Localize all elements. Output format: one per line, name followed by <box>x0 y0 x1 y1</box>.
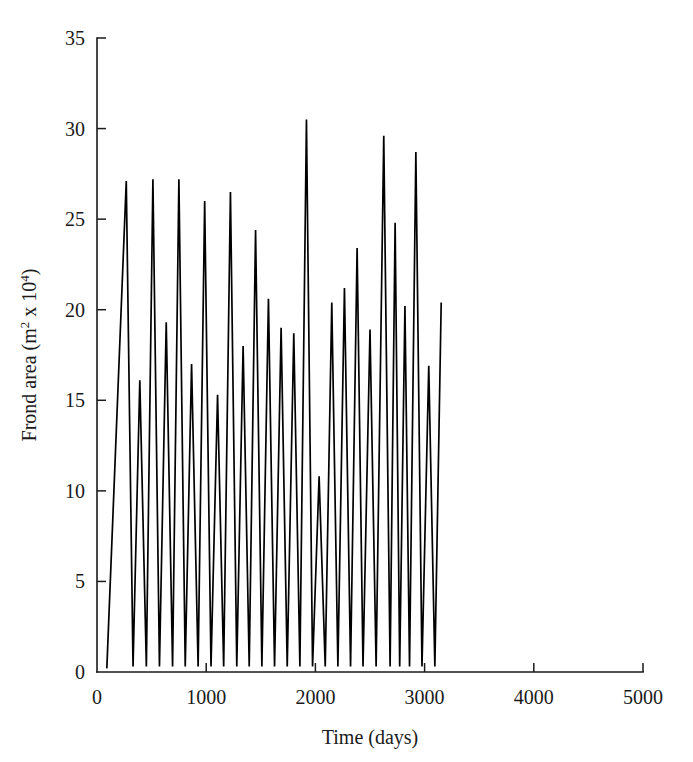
x-axis-tick-label: 4000 <box>514 686 554 708</box>
y-axis-title-text: Frond area (m2 x 104) <box>17 269 41 442</box>
x-axis-title: Time (days) <box>322 726 418 749</box>
frond-area-series-line <box>107 120 441 669</box>
x-axis-tick-labels: 010002000300040005000 <box>92 686 663 708</box>
x-axis-tick-label: 0 <box>92 686 102 708</box>
y-axis-tick-label: 20 <box>65 299 85 321</box>
x-axis-tick-label: 5000 <box>623 686 663 708</box>
y-axis-tick-label: 35 <box>65 27 85 49</box>
y-axis-title: Frond area (m2 x 104) <box>17 269 41 442</box>
y-axis-title-main: Frond area (m <box>18 328 41 442</box>
frond-area-line-chart: 05101520253035 010002000300040005000 Tim… <box>0 0 693 762</box>
x-axis-tick-label: 3000 <box>405 686 445 708</box>
y-axis-tick-labels: 05101520253035 <box>65 27 85 683</box>
y-axis-title-mid: x 10 <box>18 282 40 322</box>
y-axis-tick-label: 15 <box>65 389 85 411</box>
y-axis-tick-label: 25 <box>65 208 85 230</box>
y-axis-tick-label: 10 <box>65 480 85 502</box>
y-axis-title-close: ) <box>18 269 41 276</box>
x-axis-tick-label: 2000 <box>295 686 335 708</box>
x-axis-ticks <box>206 663 643 672</box>
y-axis-ticks <box>97 38 106 581</box>
x-axis-tick-label: 1000 <box>186 686 226 708</box>
chart-figure: 05101520253035 010002000300040005000 Tim… <box>0 0 693 762</box>
y-axis-tick-label: 5 <box>75 570 85 592</box>
y-axis-tick-label: 0 <box>75 661 85 683</box>
data-series-group <box>107 120 441 669</box>
y-axis-tick-label: 30 <box>65 118 85 140</box>
